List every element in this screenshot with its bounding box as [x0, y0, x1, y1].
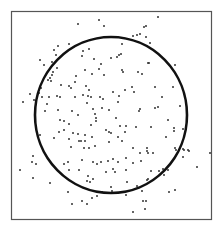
data-point	[175, 149, 177, 151]
data-point	[33, 99, 35, 101]
data-point	[102, 98, 104, 100]
data-point	[163, 174, 165, 176]
data-point	[168, 191, 170, 193]
data-point	[209, 152, 211, 154]
data-point	[132, 35, 134, 37]
data-point	[96, 195, 98, 197]
data-point	[59, 96, 61, 98]
data-point	[55, 54, 57, 56]
data-point	[183, 149, 185, 151]
data-point	[41, 96, 43, 98]
data-point	[32, 155, 34, 157]
data-point	[118, 54, 120, 56]
data-point	[182, 156, 184, 158]
data-point	[88, 89, 90, 91]
data-point	[86, 203, 88, 205]
data-point	[150, 126, 152, 128]
data-point	[84, 69, 86, 71]
data-point	[63, 163, 65, 165]
data-point	[22, 101, 24, 103]
data-point	[145, 200, 147, 202]
data-point	[121, 43, 123, 45]
data-point	[144, 208, 146, 210]
data-point	[121, 140, 123, 142]
data-point	[60, 84, 62, 86]
data-point	[141, 190, 143, 192]
data-point	[88, 48, 90, 50]
data-point	[174, 147, 176, 149]
data-point	[35, 163, 37, 165]
data-point	[107, 160, 109, 162]
data-point	[119, 125, 121, 127]
data-point	[70, 146, 72, 148]
data-point	[67, 161, 69, 163]
data-point	[150, 170, 152, 172]
data-point	[68, 169, 70, 171]
data-point	[71, 110, 73, 112]
data-point	[84, 134, 86, 136]
data-point	[85, 85, 87, 87]
data-point	[147, 152, 149, 154]
data-point	[117, 161, 119, 163]
data-point	[108, 141, 110, 143]
data-point	[78, 169, 80, 171]
data-point	[57, 45, 59, 47]
data-point	[74, 96, 76, 98]
data-point	[146, 150, 148, 152]
data-point	[143, 26, 145, 28]
data-point	[136, 34, 138, 36]
data-point	[142, 200, 144, 202]
data-point	[137, 71, 139, 73]
data-point	[132, 147, 134, 149]
data-point	[110, 186, 112, 188]
data-point	[157, 16, 159, 18]
data-point	[39, 134, 41, 136]
data-point	[91, 197, 93, 199]
data-point	[87, 175, 89, 177]
data-point	[89, 181, 91, 183]
data-point	[52, 71, 54, 73]
data-point	[115, 117, 117, 119]
data-point	[68, 138, 70, 140]
data-point	[121, 69, 123, 71]
data-point	[139, 33, 141, 35]
data-point	[141, 73, 143, 75]
data-point	[154, 86, 156, 88]
data-point	[145, 36, 147, 38]
data-point	[78, 140, 80, 142]
data-point	[122, 71, 124, 73]
data-point	[173, 130, 175, 132]
data-point	[32, 177, 34, 179]
data-point	[125, 194, 127, 196]
data-point	[77, 23, 79, 25]
data-point	[165, 136, 167, 138]
data-point	[88, 147, 90, 149]
data-point	[90, 96, 92, 98]
data-point	[132, 162, 134, 164]
data-point	[174, 189, 176, 191]
data-point	[67, 191, 69, 193]
data-point	[179, 105, 181, 107]
data-point	[71, 203, 73, 205]
data-point	[90, 124, 92, 126]
data-point	[92, 108, 94, 110]
data-point	[182, 128, 184, 130]
data-point	[136, 185, 138, 187]
data-point	[140, 160, 142, 162]
data-point	[53, 49, 55, 51]
data-point	[167, 119, 169, 121]
data-point	[56, 67, 58, 69]
data-point	[91, 136, 93, 138]
data-point	[105, 129, 107, 131]
data-point	[172, 86, 174, 88]
data-point	[112, 158, 114, 160]
data-point	[77, 133, 79, 135]
data-point	[83, 147, 85, 149]
data-points	[19, 16, 211, 213]
data-point	[43, 64, 45, 66]
data-point	[53, 137, 55, 139]
data-point	[157, 106, 159, 108]
data-point	[59, 119, 61, 121]
data-point	[92, 161, 94, 163]
data-point	[19, 169, 21, 171]
